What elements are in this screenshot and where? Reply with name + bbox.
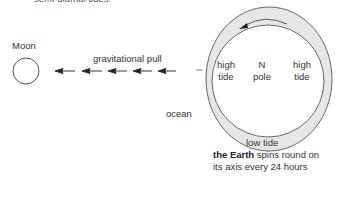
high-tide-right-line2: tide [292,71,312,83]
arrow-left-icon [133,69,152,74]
ocean-label: ocean [166,108,192,120]
moon-circle [13,58,39,84]
earth-caption-line2: its axis every 24 hours [213,161,308,173]
north-pole-line2: pole [250,71,274,83]
gravitational-pull-arrows [55,69,176,74]
low-tide-label: low tide [246,137,278,149]
arrow-left-icon [55,69,75,74]
arrow-left-icon [158,69,176,74]
moon-label: Moon [12,40,36,52]
earth-caption-rest: spins round on [254,149,319,160]
north-pole-label: N pole [250,59,274,83]
high-tide-right-line1: high [292,59,312,71]
arrow-left-icon [108,69,127,74]
earth-caption-bold: the Earth [213,149,254,160]
arrow-left-icon [82,69,102,74]
high-tide-left-line1: high [216,59,236,71]
high-tide-left-line2: tide [216,71,236,83]
gravitational-pull-label: gravitational pull [93,53,162,65]
high-tide-left-label: high tide [216,59,236,83]
north-pole-line1: N [250,59,274,71]
earth-caption-line1: the Earth spins round on [213,149,319,161]
high-tide-right-label: high tide [292,59,312,83]
